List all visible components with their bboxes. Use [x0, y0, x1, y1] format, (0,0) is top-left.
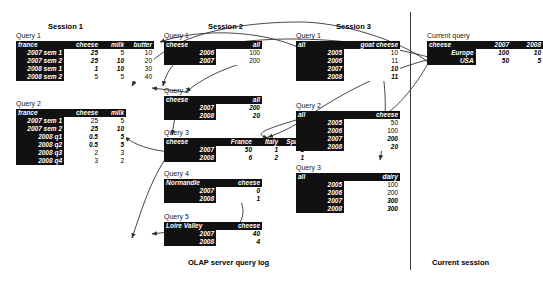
table-row: 200820	[164, 112, 262, 120]
query-result-table: cheeseall20061002007200	[164, 41, 262, 65]
query-label: Current query	[427, 32, 470, 39]
row-label: 2006	[296, 189, 344, 197]
row-label: 2005	[296, 119, 344, 127]
table-header-row: allgoat cheese	[296, 41, 400, 49]
table-corner-header: all	[296, 111, 344, 119]
cell-value: 200	[344, 135, 400, 143]
session-title-3: Session 3	[336, 22, 371, 31]
row-label: 2007	[296, 197, 344, 205]
table-row: 2007300	[296, 197, 400, 205]
cell-value: 25	[64, 57, 100, 65]
cell-value: 5	[100, 49, 126, 57]
row-label: 2007	[164, 57, 216, 65]
table-column-header: cheese	[344, 111, 400, 119]
table-row: 2006100	[296, 127, 400, 135]
cell-value: 5	[64, 73, 100, 81]
row-label: 2008 q1	[16, 133, 64, 141]
cell-value: 1	[216, 195, 262, 203]
table-header-row: cheeseall	[164, 41, 262, 49]
cell-value: 50	[476, 57, 511, 65]
table-row: 200510	[296, 49, 400, 57]
query-label: Query 5	[164, 213, 189, 220]
table-row: 200710	[296, 65, 400, 73]
row-label: 2008	[164, 112, 216, 120]
cell-value: 200	[216, 104, 262, 112]
cell-value: 0.5	[64, 133, 100, 141]
table-row: 200611	[296, 57, 400, 65]
table-corner-header: all	[296, 173, 344, 181]
cell-value: 1	[64, 65, 100, 73]
cell-value: 0	[216, 187, 262, 195]
table-row: 2008621	[164, 154, 306, 162]
query-result-table: cheese20072008Europe10010USA505	[427, 41, 543, 65]
row-label: 2008 sem 1	[16, 65, 64, 73]
table-corner-header: france	[16, 109, 64, 117]
table-row: 2007 sem 2251020	[16, 57, 154, 65]
query-result-table: francecheesemilkbutter2007 sem 125510200…	[16, 41, 154, 81]
table-row: Europe10010	[427, 49, 543, 57]
query-label: Query 3	[296, 164, 321, 171]
cell-value: 10	[344, 49, 400, 57]
cell-value: 100	[476, 49, 511, 57]
table-column-header: goat cheese	[344, 41, 400, 49]
table-header-row: cheeseall	[164, 96, 262, 104]
query-label: Query 1	[16, 32, 41, 39]
table-row: 2008 q323	[16, 149, 126, 157]
table-column-header: cheese	[64, 41, 100, 49]
cell-value: 25	[64, 117, 100, 125]
row-label: 2007	[296, 65, 344, 73]
query-label: Query 1	[296, 32, 321, 39]
table-corner-header: cheese	[427, 41, 476, 49]
table-column-header: all	[216, 96, 262, 104]
table-row: USA505	[427, 57, 543, 65]
cell-value: 50	[216, 146, 254, 154]
cell-value: 5	[100, 117, 126, 125]
cell-value: 6	[216, 154, 254, 162]
table-corner-header: all	[296, 41, 344, 49]
cell-value: 30	[126, 65, 154, 73]
query-label: Query 1	[164, 32, 189, 39]
cell-value: 50	[344, 119, 400, 127]
table-column-header: dairy	[344, 173, 400, 181]
row-label: 2008	[296, 143, 344, 151]
query-result-table: Loire Valleycheese20074020084	[164, 222, 262, 246]
row-label: 2007	[164, 146, 216, 154]
query-result-table: alldairy2005100200620020073002008300	[296, 173, 400, 213]
cell-value: 20	[216, 112, 262, 120]
table-column-header: Italy	[254, 138, 280, 146]
query-label: Query 3	[164, 129, 189, 136]
cell-value: 5	[511, 57, 543, 65]
row-label: 2007 sem 1	[16, 117, 64, 125]
table-row: 20075011	[164, 146, 306, 154]
table-row: 2007200	[164, 104, 262, 112]
cell-value: 300	[344, 197, 400, 205]
table-row: 2007 sem 1255	[16, 117, 126, 125]
table-header-row: Loire Valleycheese	[164, 222, 262, 230]
panel-divider	[410, 12, 411, 270]
row-label: 2006	[164, 49, 216, 57]
row-label: Europe	[427, 49, 476, 57]
cell-value: 1	[254, 146, 280, 154]
cell-value: 10	[344, 65, 400, 73]
table-corner-header: cheese	[164, 96, 216, 104]
cell-value: 10	[100, 125, 126, 133]
olap-log-label: OLAP server query log	[188, 258, 269, 267]
table-row: 2007200	[296, 135, 400, 143]
table-column-header: cheese	[64, 109, 100, 117]
row-label: 2005	[296, 49, 344, 57]
arrow-s2q1-to-s1q1	[186, 63, 243, 92]
table-column-header: cheese	[216, 222, 262, 230]
cell-value: 100	[344, 181, 400, 189]
table-row: 2008 q20.55	[16, 141, 126, 149]
row-label: 2005	[296, 181, 344, 189]
table-row: 2007 sem 22510	[16, 125, 126, 133]
cell-value: 25	[64, 125, 100, 133]
table-header-row: Normandiecheese	[164, 179, 262, 187]
table-column-header: France	[216, 138, 254, 146]
cell-value: 3	[100, 149, 126, 157]
cell-value: 0.5	[64, 141, 100, 149]
row-label: 2006	[296, 57, 344, 65]
table-row: 2008 q10.55	[16, 133, 126, 141]
query-result-table: cheeseFranceItalySpain200750112008621	[164, 138, 306, 162]
cell-value: 5	[100, 133, 126, 141]
